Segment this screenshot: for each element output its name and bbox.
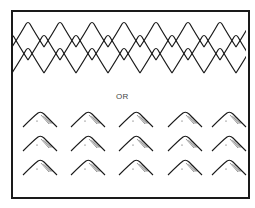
mountain-icon-grid xyxy=(23,112,246,175)
mountain-icon xyxy=(119,136,153,151)
or-divider-label: OR xyxy=(116,92,129,101)
mountain-icon xyxy=(212,136,246,151)
mountain-icon xyxy=(168,112,202,127)
line-art xyxy=(0,0,255,208)
mountain-icon xyxy=(71,112,105,127)
mountain-icon xyxy=(23,112,57,127)
mountain-icon xyxy=(23,160,57,175)
mountain-icon xyxy=(168,160,202,175)
mountain-icon xyxy=(71,160,105,175)
figure: OR xyxy=(0,0,255,208)
overlapping-ridge-pattern xyxy=(0,23,255,74)
mountain-icon xyxy=(23,136,57,151)
mountain-icon xyxy=(119,160,153,175)
mountain-icon xyxy=(168,136,202,151)
mountain-icon xyxy=(212,160,246,175)
mountain-icon xyxy=(71,136,105,151)
mountain-icon xyxy=(119,112,153,127)
mountain-icon xyxy=(212,112,246,127)
ridge-row xyxy=(0,49,255,74)
